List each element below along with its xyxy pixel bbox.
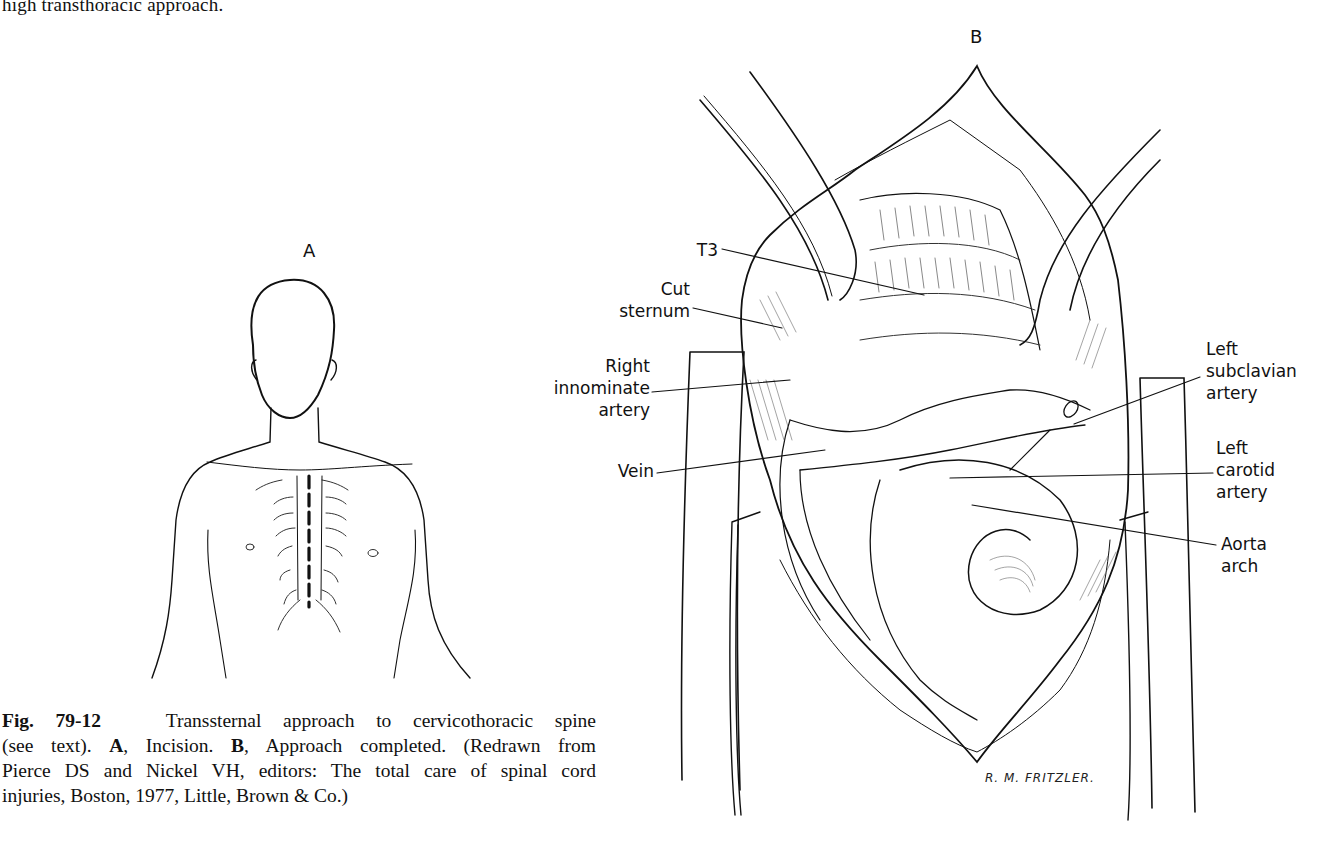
label-left-subclavian-artery: Left subclavian artery — [1206, 338, 1323, 404]
label-t3: T3 — [658, 239, 718, 261]
label-left-carotid-line3: artery — [1216, 481, 1323, 503]
caption-line-1: Fig. 79-12 Transsternal approach to cerv… — [2, 708, 596, 733]
caption-line-3: Pierce DS and Nickel VH, editors: The to… — [2, 758, 596, 783]
caption-line-4: injuries, Boston, 1977, Little, Brown & … — [2, 783, 596, 808]
label-left-carotid-line2: carotid — [1216, 459, 1323, 481]
figure-caption: Fig. 79-12 Transsternal approach to cerv… — [2, 708, 596, 808]
caption-line-2-mid: , Incision. — [123, 735, 231, 756]
caption-line-2-post: , Approach completed. (Redrawn from — [244, 735, 596, 756]
label-left-subclavian-line3: artery — [1206, 382, 1323, 404]
caption-line-2-pre: (see text). — [2, 735, 109, 756]
label-right-innominate-line1: Right — [520, 355, 650, 377]
aorta-arch-shape — [900, 460, 1077, 614]
label-left-subclavian-line1: Left — [1206, 338, 1323, 360]
caption-line-1-text: Transsternal approach to cervicothoracic… — [101, 710, 596, 731]
label-right-innominate-artery: Right innominate artery — [520, 355, 650, 421]
label-left-carotid-artery: Left carotid artery — [1216, 437, 1323, 503]
vein-shape — [790, 390, 1090, 470]
label-aorta-arch-line2: arch — [1221, 555, 1321, 577]
retractor-lower-left — [681, 352, 744, 790]
caption-panel-a-ref: A — [109, 735, 123, 756]
wound-outline — [741, 66, 1128, 762]
caption-line-2: (see text). A, Incision. B, Approach com… — [2, 733, 596, 758]
label-cut-sternum-line1: Cut — [590, 278, 690, 300]
caption-panel-b-ref: B — [231, 735, 244, 756]
label-vein: Vein — [574, 460, 654, 482]
label-cut-sternum-line2: sternum — [590, 300, 690, 322]
label-right-innominate-line3: artery — [520, 399, 650, 421]
label-cut-sternum: Cut sternum — [590, 278, 690, 322]
label-right-innominate-line2: innominate — [520, 377, 650, 399]
retractor-lower-right — [1140, 378, 1195, 812]
label-aorta-arch-line1: Aorta — [1221, 533, 1321, 555]
figure-number: Fig. 79-12 — [2, 710, 101, 731]
label-aorta-arch: Aorta arch — [1221, 533, 1321, 577]
label-left-subclavian-line2: subclavian — [1206, 360, 1323, 382]
retractor-upper-right — [1020, 130, 1160, 345]
artist-signature: R. M. FRITZLER. — [985, 771, 1095, 785]
label-left-carotid-line1: Left — [1216, 437, 1323, 459]
